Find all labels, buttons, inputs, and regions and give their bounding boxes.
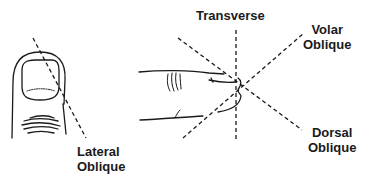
lateral-oblique-label: Lateral Oblique bbox=[77, 144, 125, 174]
knuckle-wrinkles bbox=[167, 74, 170, 91]
finger-lateral-view bbox=[139, 71, 241, 120]
nail-lunula bbox=[27, 89, 55, 91]
knuckle-crease bbox=[30, 116, 54, 118]
fingertip-dorsal-view bbox=[12, 52, 66, 138]
nail-outline bbox=[22, 60, 59, 100]
fingertip-curve bbox=[218, 78, 241, 112]
dorsal-oblique-label: Dorsal Oblique bbox=[308, 125, 356, 155]
volar-oblique-line bbox=[183, 33, 304, 138]
finger-bottom-edge bbox=[140, 116, 203, 120]
volar-oblique-label: Volar Oblique bbox=[303, 22, 351, 52]
transverse-label: Transverse bbox=[196, 8, 265, 23]
finger-top-edge bbox=[139, 71, 224, 74]
